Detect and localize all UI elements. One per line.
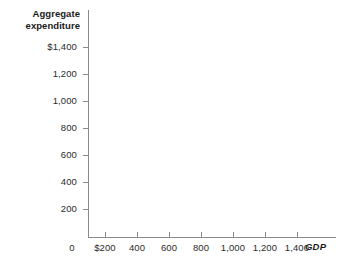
y-axis-title: Aggregate expenditure (8, 8, 80, 31)
y-tick-label-wrap: 400 (17, 177, 77, 187)
x-tick-mark (201, 232, 202, 238)
x-tick-mark (137, 232, 138, 238)
y-tick-mark (83, 182, 89, 183)
y-tick-mark (83, 155, 89, 156)
y-tick-mark (83, 101, 89, 102)
y-tick-label: 1,200 (17, 69, 77, 79)
y-tick-label-wrap: $1,400 (17, 42, 77, 52)
x-tick-mark (169, 232, 170, 238)
y-tick-label: 1,000 (17, 96, 77, 106)
y-tick-label: 800 (17, 123, 77, 133)
x-tick-mark (233, 232, 234, 238)
y-tick-label-wrap: 1,200 (17, 69, 77, 79)
plot-area (89, 10, 336, 237)
y-tick-mark (83, 74, 89, 75)
x-tick-mark (297, 232, 298, 238)
y-tick-label-wrap: 1,000 (17, 96, 77, 106)
y-tick-label: 600 (17, 150, 77, 160)
y-tick-label: 400 (17, 177, 77, 187)
y-tick-label-wrap: 200 (17, 204, 77, 214)
y-tick-label: 200 (17, 204, 77, 214)
x-axis-line (88, 237, 336, 238)
y-axis-title-line1: Aggregate (8, 8, 80, 20)
y-tick-label: $1,400 (17, 42, 77, 52)
origin-label: 0 (60, 242, 84, 253)
x-tick-mark (105, 232, 106, 238)
y-tick-mark (83, 128, 89, 129)
x-tick-mark (265, 232, 266, 238)
y-tick-label-wrap: 600 (17, 150, 77, 160)
y-axis-title-line2: expenditure (8, 20, 80, 32)
y-tick-mark (83, 47, 89, 48)
aggregate-expenditure-chart: Aggregate expenditure $1,400 1,200 1,000… (0, 0, 351, 271)
y-tick-mark (83, 209, 89, 210)
y-tick-label-wrap: 800 (17, 123, 77, 133)
x-axis-title: GDP (305, 241, 326, 252)
